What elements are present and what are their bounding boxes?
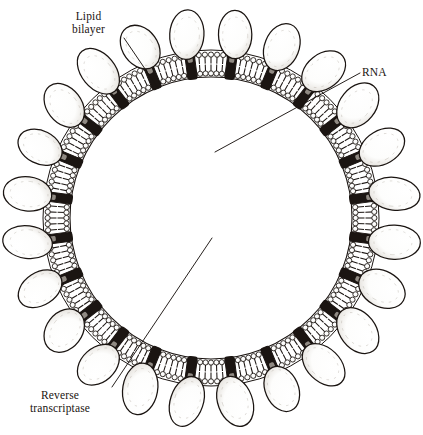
virion-diagram-figure: Lipid bilayer RNA Reverse transcriptase (0, 0, 423, 435)
label-reverse-transcriptase: Reverse transcriptase (30, 389, 90, 414)
label-lipid-bilayer: Lipid bilayer (72, 10, 105, 35)
lipid-bilayer-group (41, 48, 381, 388)
virion-illustration (0, 0, 423, 435)
label-rna: RNA (362, 66, 387, 79)
